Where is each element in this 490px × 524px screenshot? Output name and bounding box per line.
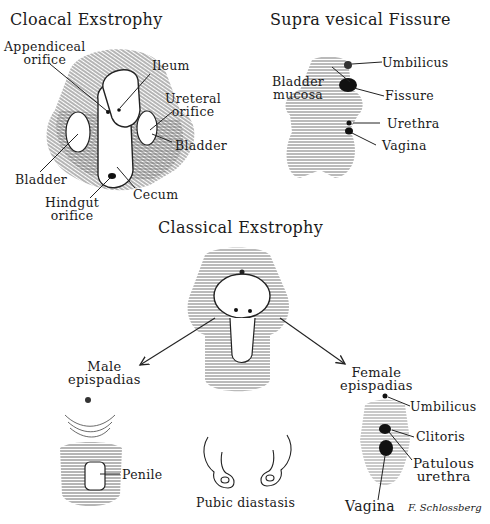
label-ureteral-orifice: Ureteral orifice [165, 92, 221, 118]
label-line-2: urethra [413, 470, 474, 483]
label-clitoris: Clitoris [416, 430, 465, 443]
supravesical-fissure-title: Supra vesical Fissure [270, 10, 451, 29]
classical-exstrophy-drawing [140, 248, 345, 392]
label-appendiceal-orifice: Appendiceal orifice [4, 40, 86, 66]
label-line-2: orifice [165, 105, 221, 118]
label-line-2: orifice [4, 53, 86, 66]
label-line-2: orifice [45, 209, 99, 222]
label-umbilicus: Umbilicus [382, 56, 449, 69]
label-line-2: epispadias [340, 379, 413, 392]
label-line-2: epispadias [68, 373, 141, 386]
label-urethra: Urethra [387, 117, 440, 130]
male-epispadias-drawing [60, 397, 122, 506]
label-cecum: Cecum [133, 188, 178, 201]
classical-exstrophy-title: Classical Exstrophy [158, 218, 323, 237]
artist-signature: F. Schlossberg [408, 502, 482, 513]
label-ileum: Ileum [152, 59, 190, 72]
female-epispadias-title: Female epispadias [340, 366, 413, 392]
pubic-diastasis-drawing [204, 435, 291, 488]
label-bladder-mucosa: Bladder mucosa [272, 75, 324, 101]
male-epispadias-title: Male epispadias [68, 360, 141, 386]
label-patulous-urethra: Patulous urethra [413, 457, 474, 483]
label-bladder-right: Bladder [175, 139, 227, 152]
label-hindgut-orifice: Hindgut orifice [45, 196, 99, 222]
label-pubic-diastasis: Pubic diastasis [196, 496, 295, 509]
female-epispadias-drawing [360, 394, 414, 501]
label-vagina: Vagina [382, 139, 427, 152]
illustration-artwork [0, 0, 490, 524]
label-penile: Penile [122, 468, 163, 481]
label-bladder-left: Bladder [15, 173, 67, 186]
cloacal-exstrophy-title: Cloacal Exstrophy [10, 10, 163, 29]
label-female-umbilicus: Umbilicus [410, 400, 477, 413]
label-fissure: Fissure [385, 89, 434, 102]
label-line-2: mucosa [272, 88, 324, 101]
label-female-vagina: Vagina [345, 500, 395, 513]
